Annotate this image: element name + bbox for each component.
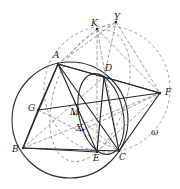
point-marker-D [103, 76, 106, 79]
point-label-D: D [105, 64, 112, 73]
point-label-X: X [76, 124, 82, 133]
segment-GB [23, 110, 38, 148]
segment-KA [58, 29, 97, 64]
point-marker-K [96, 28, 99, 31]
point-label-B: B [12, 145, 19, 154]
segment-AY [58, 22, 116, 64]
circle-layer [12, 26, 170, 178]
point-label-M: M [70, 108, 79, 117]
point-marker-F [159, 92, 162, 95]
segment-KY [97, 22, 116, 29]
point-marker-A [57, 63, 60, 66]
geometry-figure: ABCDEFGKMXYω [0, 0, 180, 189]
point-label-A: A [53, 51, 60, 60]
point-label-F: F [165, 88, 171, 97]
point-label-Y: Y [114, 13, 120, 22]
diagram-canvas [0, 0, 180, 189]
segment-DE [97, 77, 104, 152]
point-marker-B [22, 147, 25, 150]
segment-GF [38, 93, 160, 110]
point-label-C: C [119, 153, 126, 162]
point-label-G: G [28, 104, 35, 113]
solid-segment-layer [23, 64, 160, 152]
curve-label-omega: ω [151, 128, 158, 137]
point-label-K: K [91, 19, 98, 28]
segment-EF [97, 93, 160, 152]
point-marker-G [37, 109, 40, 112]
point-label-E: E [93, 154, 100, 163]
